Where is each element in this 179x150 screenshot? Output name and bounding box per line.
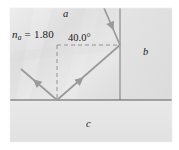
- medium-b-label: b: [143, 47, 148, 58]
- region-medium-c: [10, 100, 172, 142]
- medium-a-label: a: [63, 9, 68, 20]
- angle-label: 40.0°: [68, 33, 91, 44]
- refractive-index-equals: =: [22, 28, 34, 40]
- refractive-index-value: 1.80: [34, 28, 54, 40]
- optics-figure: na = 1.80 40.0° a b c: [0, 0, 179, 150]
- medium-c-label: c: [86, 119, 91, 130]
- refractive-index-label: na = 1.80: [12, 29, 54, 41]
